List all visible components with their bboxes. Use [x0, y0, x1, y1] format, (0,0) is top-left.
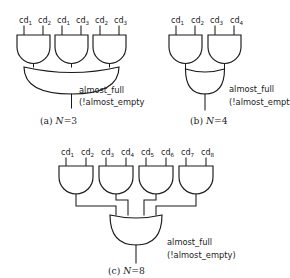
panel-b-diagram: cd1 cd2 cd3 cd4 almost_full (!almost_emp…: [145, 0, 290, 132]
input-label-c-4: cd5: [141, 147, 155, 158]
input-label-b-1: cd2: [191, 15, 204, 26]
or-gate-b: [186, 69, 225, 94]
or-gate-c: [110, 215, 162, 245]
input-label-a-5: cd3: [114, 15, 128, 26]
input-label-b-2: cd3: [210, 15, 224, 26]
input-label-c-6: cd7: [181, 147, 195, 158]
output-label-a-line2: (!almost_empty): [79, 97, 145, 107]
caption-a: (a) N=3: [40, 115, 77, 126]
interconnect-wires-b: [186, 64, 225, 70]
input-label-a-1: cd2: [38, 15, 51, 26]
and-gate-b-2: [208, 35, 241, 64]
output-label-c-line1: almost_full: [167, 237, 212, 247]
caption-c: (c) N=8: [108, 265, 145, 276]
caption-b: (b) N=4: [190, 115, 228, 126]
input-label-a-2: cd1: [57, 15, 71, 26]
input-label-b-0: cd1: [171, 15, 185, 26]
and-gate-b-1: [169, 35, 202, 64]
input-wires-a: [24, 26, 119, 35]
and-gate-a-3: [93, 35, 126, 64]
input-wires-c: [66, 158, 206, 166]
output-label-b-line2: (!almost_empty): [229, 97, 290, 107]
output-label-b-line1: almost_full: [229, 84, 274, 94]
input-label-c-0: cd1: [61, 147, 75, 158]
panel-c-diagram: cd1 cd2 cd3 cd4 cd5 cd6 cd7 cd8: [0, 132, 290, 278]
input-label-a-3: cd3: [76, 15, 90, 26]
and-gate-a-2: [55, 35, 88, 64]
input-label-c-3: cd4: [121, 147, 135, 158]
input-label-c-1: cd2: [81, 147, 94, 158]
input-label-c-5: cd6: [161, 147, 175, 158]
panel-a-diagram: cd1 cd2 cd1 cd3 cd2 cd3 almost_full (!al…: [0, 0, 145, 132]
output-label-c-line2: (!almost_empty): [167, 250, 236, 260]
output-label-a-line1: almost_full: [79, 85, 124, 95]
and-gate-c-3: [139, 166, 173, 194]
input-label-b-3: cd4: [230, 15, 244, 26]
figure-root: cd1 cd2 cd1 cd3 cd2 cd3 almost_full (!al…: [0, 0, 290, 278]
and-gate-c-4: [179, 166, 213, 194]
and-gate-c-2: [99, 166, 133, 194]
input-label-a-0: cd1: [19, 15, 33, 26]
input-label-c-2: cd3: [101, 147, 115, 158]
interconnect-wires-a: [34, 64, 110, 68]
interconnect-wires-c: [76, 194, 196, 215]
and-gate-c-1: [59, 166, 93, 194]
and-gate-a-1: [17, 35, 50, 64]
input-label-a-4: cd2: [95, 15, 108, 26]
input-label-c-7: cd8: [201, 147, 215, 158]
input-wires-b: [176, 26, 234, 35]
